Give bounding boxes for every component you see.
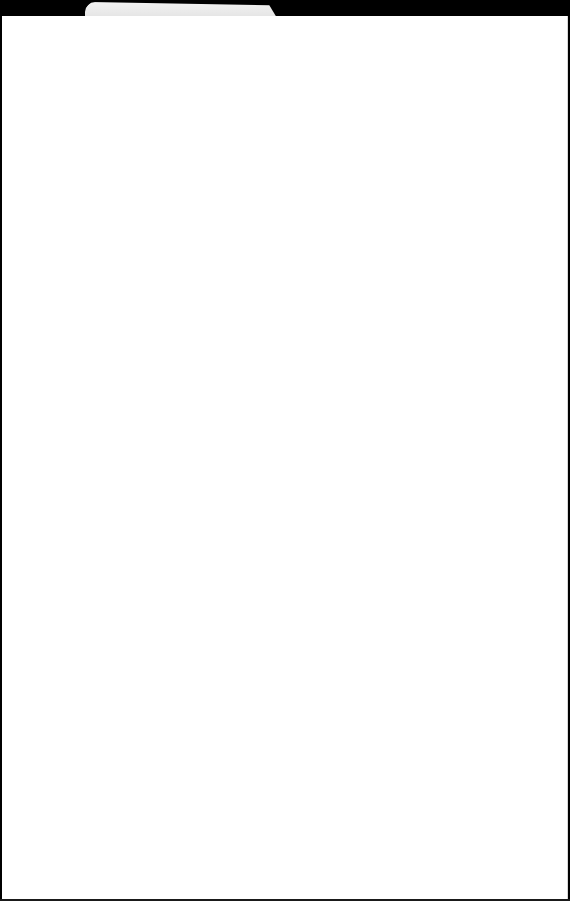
- tab-strip: [0, 0, 570, 16]
- browser-window: [0, 0, 570, 901]
- page-content-area[interactable]: [2, 16, 568, 899]
